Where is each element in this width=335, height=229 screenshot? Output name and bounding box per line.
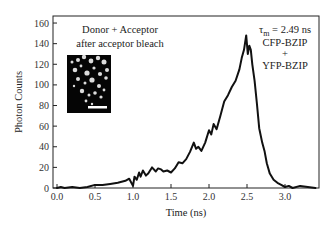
puncta-dot (89, 59, 94, 64)
puncta-dot (98, 72, 102, 76)
puncta-dot (84, 70, 89, 75)
x-tick-label: 1.5 (165, 191, 178, 202)
puncta-dot (93, 91, 97, 95)
puncta-dot (89, 77, 94, 82)
puncta-dot (73, 68, 78, 73)
puncta-dot (71, 61, 74, 64)
x-tick-label: 2.0 (203, 191, 216, 202)
x-axis-label: Time (ns) (166, 207, 207, 219)
puncta-dot (91, 103, 93, 105)
y-axis: 020406080100120140160 (34, 18, 57, 194)
y-tick-label: 40 (39, 141, 49, 152)
scale-bar (88, 106, 107, 109)
construct-1-label: CFP-BZIP (263, 37, 308, 48)
puncta-dot (92, 66, 95, 69)
y-tick-label: 120 (34, 59, 49, 70)
puncta-dot (88, 94, 91, 97)
x-tick-label: 3.0 (279, 191, 292, 202)
puncta-dot (96, 56, 100, 60)
x-tick-label: 0.0 (51, 191, 64, 202)
puncta-dot (85, 100, 88, 103)
y-tick-label: 100 (34, 79, 49, 90)
lifetime-histogram-chart: 020406080100120140160 0.00.51.01.52.02.5… (0, 0, 335, 229)
condition-label-line1: Donor + Acceptor (82, 24, 158, 35)
puncta-dot (97, 84, 101, 88)
puncta-dot (73, 85, 75, 87)
plus-label: + (282, 48, 288, 59)
tau-label: τm = 2.49 ns (259, 24, 311, 38)
y-tick-label: 20 (39, 162, 49, 173)
x-tick-label: 0.5 (89, 191, 102, 202)
y-tick-label: 80 (39, 100, 49, 111)
puncta-dot (104, 76, 108, 80)
puncta-dot (84, 82, 87, 85)
puncta-dot (80, 89, 84, 93)
puncta-dot (102, 60, 107, 65)
puncta-dot (76, 58, 80, 62)
puncta-dot (103, 89, 106, 92)
y-tick-label: 160 (34, 18, 49, 29)
puncta-dot (80, 65, 83, 68)
construct-2-label: YFP-BZIP (262, 60, 308, 71)
x-tick-label: 1.0 (127, 191, 140, 202)
y-tick-label: 60 (39, 121, 49, 132)
inset-micrograph (67, 55, 111, 113)
puncta-dot (82, 55, 86, 59)
y-axis-label: Photon Counts (13, 71, 24, 133)
puncta-dot (105, 68, 109, 72)
puncta-dot (76, 77, 80, 81)
tau-value: = 2.49 ns (269, 24, 311, 35)
y-tick-label: 140 (34, 38, 49, 49)
condition-label-line2: after acceptor bleach (76, 38, 164, 49)
puncta-dot (99, 95, 102, 98)
y-tick-label: 0 (44, 183, 49, 194)
x-tick-label: 2.5 (241, 191, 254, 202)
